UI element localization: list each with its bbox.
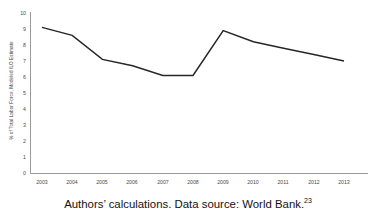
chart-plot-area: % of Total Labor Force, Modeled ILO Esti… <box>0 0 376 194</box>
data-series-line <box>0 0 376 194</box>
series-polyline <box>42 27 344 75</box>
figure-caption: Authors’ calculations. Data source: Worl… <box>0 197 376 210</box>
caption-text: Authors’ calculations. Data source: Worl… <box>64 198 304 210</box>
caption-footnote-marker: 23 <box>304 197 312 204</box>
figure-container: % of Total Labor Force, Modeled ILO Esti… <box>0 0 376 220</box>
